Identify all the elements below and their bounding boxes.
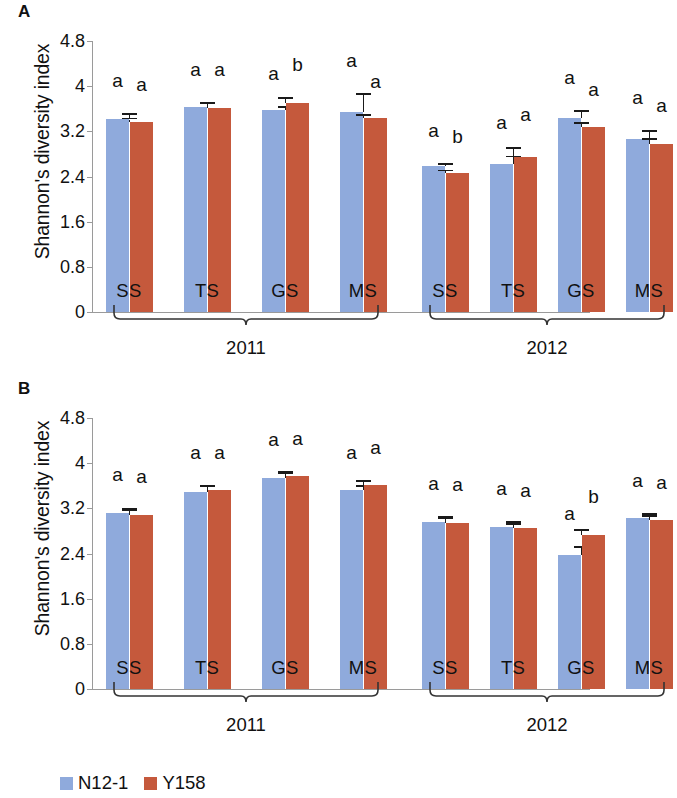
panel-a-y-axis-line bbox=[92, 41, 93, 313]
panel-b-letter: B bbox=[18, 379, 30, 399]
error-bar-cap bbox=[356, 114, 371, 116]
significance-letter: a bbox=[340, 443, 363, 462]
y-tick-label: 3.2 bbox=[60, 121, 85, 142]
y-tick-mark bbox=[87, 222, 92, 223]
y-tick-label: 0 bbox=[75, 679, 85, 700]
error-bar-cap bbox=[574, 529, 589, 531]
error-bar bbox=[513, 525, 515, 528]
legend-swatch bbox=[60, 777, 73, 790]
y-tick-mark bbox=[87, 644, 92, 645]
error-bar-cap bbox=[122, 118, 137, 120]
significance-letter: a bbox=[262, 64, 285, 83]
significance-letter: a bbox=[106, 71, 129, 90]
bar-group: aa bbox=[262, 418, 309, 689]
y-tick-mark bbox=[87, 554, 92, 555]
panel-a: A Shannon's diversity index 00.81.62.43.… bbox=[0, 0, 601, 400]
significance-letter: a bbox=[626, 471, 649, 490]
legend-item-y158: Y158 bbox=[144, 772, 205, 794]
significance-letter: b bbox=[582, 487, 605, 506]
significance-letter: a bbox=[514, 105, 537, 124]
error-bar-cap bbox=[200, 102, 215, 104]
x-category-label: SS bbox=[415, 280, 475, 302]
y-tick-label: 0 bbox=[75, 302, 85, 323]
error-bar bbox=[649, 517, 651, 520]
y-tick-mark bbox=[87, 689, 92, 690]
significance-letter: a bbox=[582, 80, 605, 99]
error-bar-cap bbox=[278, 97, 293, 99]
error-bar bbox=[285, 99, 287, 104]
legend-swatch bbox=[144, 777, 157, 790]
significance-letter: a bbox=[490, 479, 513, 498]
error-bar bbox=[649, 140, 651, 144]
significance-letter: a bbox=[262, 430, 285, 449]
x-category-label: GS bbox=[255, 657, 315, 679]
y-tick-label: 0.8 bbox=[60, 256, 85, 277]
error-bar bbox=[363, 95, 365, 112]
error-bar-cap bbox=[122, 113, 137, 115]
bar-group: aa bbox=[490, 41, 537, 312]
x-category-label: TS bbox=[483, 280, 543, 302]
significance-letter: a bbox=[558, 68, 581, 87]
error-bar bbox=[581, 124, 583, 127]
x-category-label: MS bbox=[333, 657, 393, 679]
y-tick-label: 4 bbox=[75, 76, 85, 97]
y-tick-label: 0.8 bbox=[60, 633, 85, 654]
x-category-label: MS bbox=[619, 657, 677, 679]
year-label: 2011 bbox=[201, 337, 291, 359]
significance-letter: a bbox=[286, 429, 309, 448]
error-bar bbox=[363, 116, 365, 119]
significance-letter: a bbox=[514, 481, 537, 500]
x-category-label: SS bbox=[99, 280, 159, 302]
significance-letter: a bbox=[650, 96, 673, 115]
panel-b-plot-area: 00.81.62.43.244.8aaaaaaaaaaaaabaa bbox=[92, 418, 590, 690]
year-label: 2012 bbox=[502, 714, 592, 736]
error-bar bbox=[285, 473, 287, 476]
error-bar bbox=[129, 120, 131, 123]
error-bar bbox=[445, 519, 447, 523]
y-tick-mark bbox=[87, 418, 92, 419]
error-bar bbox=[207, 104, 209, 107]
year-brace bbox=[428, 682, 666, 704]
x-category-label: GS bbox=[255, 280, 315, 302]
error-bar-cap bbox=[574, 110, 589, 112]
panel-b-y-axis-line bbox=[92, 418, 93, 690]
x-category-label: MS bbox=[333, 280, 393, 302]
x-category-label: TS bbox=[483, 657, 543, 679]
bar-group: aa bbox=[340, 41, 387, 312]
error-bar-cap bbox=[200, 486, 215, 488]
bar-group: aa bbox=[184, 418, 231, 689]
x-category-label: SS bbox=[415, 657, 475, 679]
year-label: 2012 bbox=[502, 337, 592, 359]
error-bar-cap bbox=[122, 509, 137, 511]
error-bar bbox=[363, 482, 365, 485]
significance-letter: a bbox=[208, 60, 231, 79]
error-bar-cap bbox=[278, 471, 293, 473]
bar-group: aa bbox=[626, 41, 673, 312]
x-category-label: GS bbox=[551, 280, 611, 302]
bar-group: ab bbox=[262, 41, 309, 312]
significance-letter: a bbox=[130, 75, 153, 94]
error-bar bbox=[207, 487, 209, 490]
y-tick-label: 4 bbox=[75, 453, 85, 474]
bar-group: aa bbox=[422, 418, 469, 689]
bar-group: aa bbox=[558, 41, 605, 312]
panel-a-y-axis-title: Shannon's diversity index bbox=[31, 7, 54, 297]
y-tick-label: 3.2 bbox=[60, 498, 85, 519]
error-bar-cap bbox=[642, 130, 657, 132]
y-tick-mark bbox=[87, 312, 92, 313]
error-bar bbox=[581, 531, 583, 536]
x-category-label: TS bbox=[177, 280, 237, 302]
error-bar bbox=[581, 112, 583, 119]
error-bar bbox=[129, 511, 131, 514]
y-tick-mark bbox=[87, 463, 92, 464]
error-bar-cap bbox=[356, 480, 371, 482]
y-tick-mark bbox=[87, 599, 92, 600]
bar-group: ab bbox=[422, 41, 469, 312]
significance-letter: a bbox=[422, 121, 445, 140]
error-bar-cap bbox=[438, 170, 453, 172]
bar-group: aa bbox=[340, 418, 387, 689]
significance-letter: a bbox=[650, 473, 673, 492]
y-tick-mark bbox=[87, 177, 92, 178]
error-bar bbox=[445, 165, 447, 166]
significance-letter: a bbox=[364, 72, 387, 91]
